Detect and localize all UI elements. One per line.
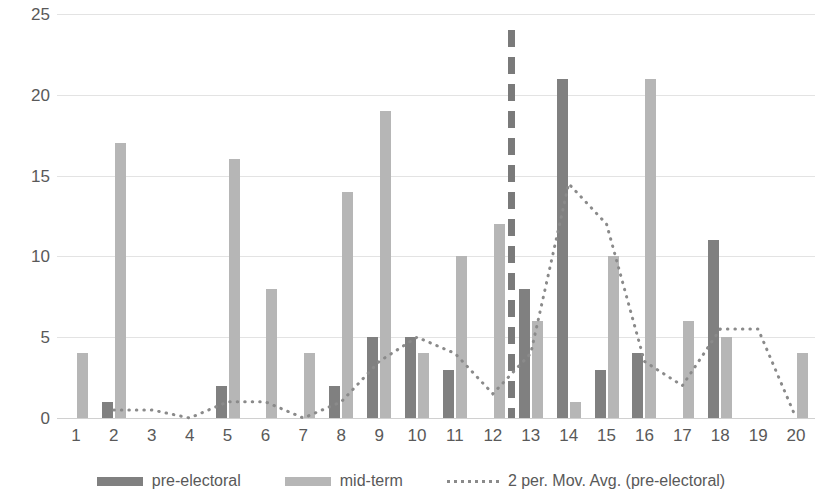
legend-item-moving-average: 2 per. Mov. Avg. (pre-electoral)	[447, 472, 725, 490]
legend-item-mid-term: mid-term	[285, 472, 403, 490]
x-axis-tick-label: 11	[436, 426, 474, 446]
x-axis-tick-label: 7	[284, 426, 322, 446]
legend-label: mid-term	[340, 472, 403, 490]
legend-label: pre-electoral	[152, 472, 241, 490]
x-axis-tick-label: 1	[57, 426, 95, 446]
x-axis-tick-label: 16	[626, 426, 664, 446]
y-axis-tick-label: 20	[10, 87, 50, 104]
x-axis-tick-label: 2	[95, 426, 133, 446]
x-axis-tick-label: 5	[209, 426, 247, 446]
x-axis-tick-label: 9	[360, 426, 398, 446]
dotted-line-swatch-icon	[447, 480, 499, 483]
legend-label: 2 per. Mov. Avg. (pre-electoral)	[508, 472, 725, 490]
x-axis-tick-label: 10	[398, 426, 436, 446]
x-axis-tick-label: 18	[701, 426, 739, 446]
axis-baseline	[57, 418, 815, 419]
bar-swatch-dark-icon	[97, 477, 143, 486]
y-axis-tick-label: 10	[10, 248, 50, 265]
x-axis-tick-label: 8	[322, 426, 360, 446]
x-axis-tick-label: 6	[247, 426, 285, 446]
y-axis-tick-label: 15	[10, 168, 50, 185]
x-axis: 1234567891011121314151617181920	[57, 426, 815, 452]
moving-average-line	[57, 14, 815, 418]
bar-swatch-light-icon	[285, 477, 331, 486]
moving-average-polyline	[114, 184, 796, 418]
x-axis-tick-label: 17	[663, 426, 701, 446]
x-axis-tick-label: 19	[739, 426, 777, 446]
y-axis-tick-label: 5	[10, 329, 50, 346]
plot-area	[57, 14, 815, 418]
x-axis-tick-label: 13	[512, 426, 550, 446]
x-axis-tick-label: 12	[474, 426, 512, 446]
x-axis-tick-label: 14	[550, 426, 588, 446]
legend-item-pre-electoral: pre-electoral	[97, 472, 241, 490]
y-axis-tick-label: 25	[10, 6, 50, 23]
x-axis-tick-label: 4	[171, 426, 209, 446]
x-axis-tick-label: 20	[777, 426, 815, 446]
y-axis: 0510152025	[0, 0, 50, 418]
chart-legend: pre-electoral mid-term 2 per. Mov. Avg. …	[0, 468, 822, 494]
y-axis-tick-label: 0	[10, 410, 50, 427]
chart-container: 0510152025 12345678910111213141516171819…	[0, 0, 822, 503]
x-axis-tick-label: 3	[133, 426, 171, 446]
x-axis-tick-label: 15	[588, 426, 626, 446]
